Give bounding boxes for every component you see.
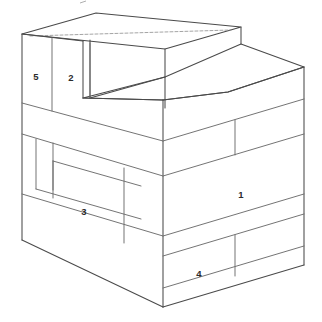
block-label-4: 4 (196, 268, 202, 279)
block-label-2: 2 (68, 72, 73, 83)
figure-root: 5 2 3 1 4 (0, 0, 322, 322)
stray-mark-top (80, 1, 86, 3)
block-label-3: 3 (81, 206, 86, 217)
block-label-5: 5 (33, 71, 39, 82)
block-label-1: 1 (238, 189, 244, 200)
isometric-block-diagram: 5 2 3 1 4 (0, 0, 322, 322)
artifact-marks (80, 1, 86, 3)
